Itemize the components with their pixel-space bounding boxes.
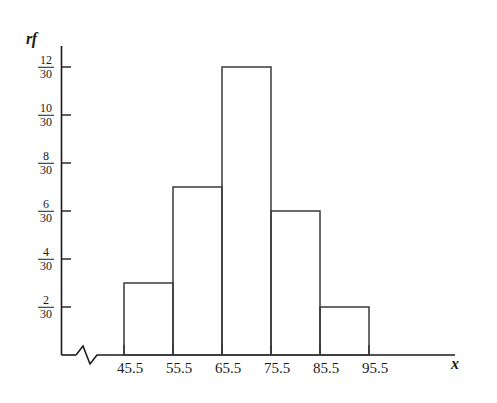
y-tick-numerator: 2: [38, 294, 54, 306]
histogram-bar-55-5-65-5: [173, 187, 222, 355]
y-tick-numerator: 12: [38, 54, 54, 66]
y-tick-label-8-30: 8 30: [38, 150, 54, 176]
y-tick-label-10-30: 10 30: [38, 102, 54, 128]
histogram-bars: [124, 67, 369, 355]
y-tick-denominator: 30: [38, 164, 54, 176]
histogram-canvas: [0, 0, 497, 403]
y-tick-numerator: 10: [38, 102, 54, 114]
y-tick-label-4-30: 4 30: [38, 246, 54, 272]
y-axis-ticks: [62, 67, 72, 307]
y-tick-numerator: 6: [38, 198, 54, 210]
x-tick-label-65-5: 65.5: [215, 360, 241, 377]
y-tick-denominator: 30: [38, 68, 54, 80]
x-tick-label-45-5: 45.5: [117, 360, 143, 377]
x-tick-label-55-5: 55.5: [166, 360, 192, 377]
x-tick-label-85-5: 85.5: [313, 360, 339, 377]
x-tick-label-95-5: 95.5: [362, 360, 388, 377]
y-tick-denominator: 30: [38, 260, 54, 272]
histogram-figure: rf x 12 30 10 30 8 30 6 30 4 30 2 30 45.…: [0, 0, 497, 403]
y-tick-numerator: 4: [38, 246, 54, 258]
y-tick-denominator: 30: [38, 308, 54, 320]
y-tick-denominator: 30: [38, 212, 54, 224]
histogram-bar-75-5-85-5: [271, 211, 320, 355]
x-axis-label: x: [451, 355, 459, 373]
y-tick-label-12-30: 12 30: [38, 54, 54, 80]
y-tick-label-2-30: 2 30: [38, 294, 54, 320]
x-axis-ticks: [124, 345, 369, 355]
histogram-bar-65-5-75-5: [222, 67, 271, 355]
x-tick-label-75-5: 75.5: [264, 360, 290, 377]
y-tick-label-6-30: 6 30: [38, 198, 54, 224]
histogram-bar-85-5-95-5: [320, 307, 369, 355]
y-axis-label: rf: [26, 30, 37, 48]
y-tick-numerator: 8: [38, 150, 54, 162]
histogram-bar-45-5-55-5: [124, 283, 173, 355]
y-tick-denominator: 30: [38, 116, 54, 128]
